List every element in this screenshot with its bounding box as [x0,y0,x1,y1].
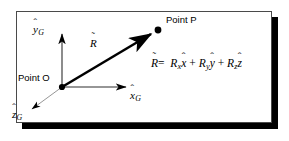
equation-operator-2: + [218,57,225,69]
equation-term-y-coeff: R [199,57,206,69]
figure-container: Point O Point P ˆyG ˆxG ˆzG ˜R ˜R= Rxˆx … [0,0,289,141]
equation-term-z-unit-hat-icon: ˆ [238,51,242,62]
vector-r-tilde-icon: ˜ [91,32,94,42]
equation-operator-1: + [189,57,196,69]
equation-term-x-coeff: R [170,57,177,69]
equation-term-x-unit-hat-icon: ˆ [182,51,186,62]
point-o-marker [59,84,65,90]
point-p-marker [155,27,162,34]
vector-diagram-svg [0,0,289,141]
point-o-label: Point O [18,73,50,83]
position-vector-r-arrow [62,34,151,87]
y-axis-hat-icon: ˆ [34,18,37,28]
x-axis-subscript: G [135,94,141,103]
equation-lhs-tilde-icon: ˜ [153,51,157,62]
equation-term-z-coeff: R [227,57,234,69]
point-p-label: Point P [166,15,197,25]
z-axis-subscript: G [17,113,23,122]
x-axis-label: ˆxG [130,90,141,103]
z-axis-arrow [32,87,62,109]
equation-term-y-unit-hat-icon: ˆ [210,51,214,62]
z-axis-hat-icon: ˆ [12,103,15,113]
y-axis-label: ˆyG [33,24,44,37]
z-axis-label: ˆzG [12,109,22,122]
y-axis-subscript: G [38,28,44,37]
vector-equation: ˜R= Rxˆx + Ryˆy + Rzˆz [151,58,242,72]
vector-r-label: ˜R [90,38,97,49]
x-axis-hat-icon: ˆ [131,84,134,94]
equation-equals: = [158,57,165,69]
